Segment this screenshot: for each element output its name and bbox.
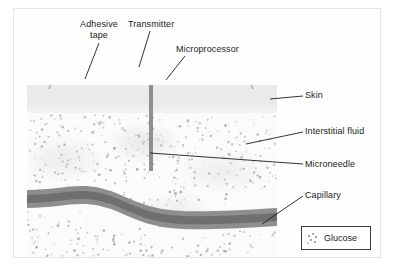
leader-capillary <box>262 196 303 224</box>
leader-transmitter <box>139 31 150 67</box>
label-adhesive-tape: Adhesive tape <box>72 19 126 41</box>
leader-adhesive-tape <box>85 43 99 79</box>
legend-box: Glucose <box>301 226 371 250</box>
legend-entry-glucose: Glucose <box>324 233 357 243</box>
leader-microneedle <box>150 153 303 164</box>
leader-skin <box>270 96 303 99</box>
label-interstitial-fluid: Interstitial fluid <box>305 126 364 137</box>
label-microneedle: Microneedle <box>305 159 355 170</box>
label-transmitter: Transmitter <box>128 19 174 30</box>
label-capillary: Capillary <box>305 190 341 201</box>
label-skin: Skin <box>305 90 323 101</box>
glucose-marker-icon <box>306 231 322 247</box>
leader-microprocessor <box>166 56 185 80</box>
label-microprocessor: Microprocessor <box>176 44 239 55</box>
leader-interstitial-fluid <box>246 132 303 144</box>
figure-canvas: Adhesive tape Transmitter Microprocessor… <box>0 0 394 275</box>
